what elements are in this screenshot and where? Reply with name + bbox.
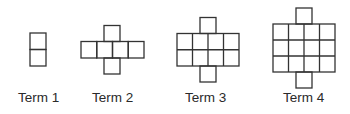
term-3-figure [177, 18, 239, 83]
term-2-label: Term 2 [92, 90, 133, 106]
term-4-label: Term 4 [283, 90, 324, 106]
term-2-figure [81, 26, 144, 75]
term-1-label: Term 1 [18, 90, 59, 106]
term-4-figure [273, 8, 335, 88]
term-1-figure [30, 33, 46, 66]
term-3-label: Term 3 [185, 90, 226, 106]
